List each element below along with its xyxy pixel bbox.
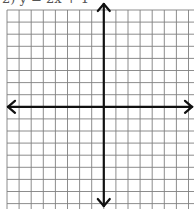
coordinate-plane (0, 0, 194, 209)
grid-lines (7, 10, 194, 209)
